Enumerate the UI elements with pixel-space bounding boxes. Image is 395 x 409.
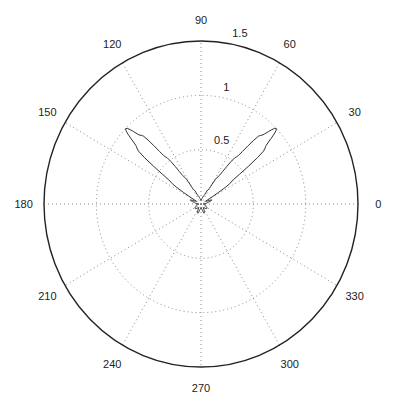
grid-spoke [201, 204, 337, 286]
grid-spoke [201, 204, 280, 345]
r-tick-labels: 0.511.5 [214, 27, 247, 146]
r-tick-label: 1.5 [232, 27, 247, 39]
theta-tick-label: 60 [284, 38, 296, 50]
theta-tick-label: 150 [38, 106, 56, 118]
theta-tick-label: 210 [38, 290, 56, 302]
r-tick-label: 1 [223, 81, 229, 93]
grid-spokes [44, 41, 358, 367]
r-tick-label: 0.5 [214, 134, 229, 146]
theta-tick-label: 120 [103, 38, 121, 50]
theta-tick-label: 180 [14, 198, 32, 210]
theta-tick-label: 90 [195, 14, 207, 26]
theta-tick-label: 0 [375, 198, 381, 210]
theta-tick-label: 240 [103, 358, 121, 370]
theta-tick-label: 330 [345, 290, 363, 302]
theta-tick-label: 30 [349, 106, 361, 118]
theta-tick-label: 270 [192, 382, 210, 394]
theta-tick-label: 300 [281, 358, 299, 370]
grid-spoke [123, 204, 202, 345]
grid-spoke [65, 123, 201, 205]
polar-plot: 0306090120150180210240270300330 0.511.5 [0, 0, 395, 409]
data-series-line [126, 128, 277, 213]
grid-spoke [65, 204, 201, 286]
